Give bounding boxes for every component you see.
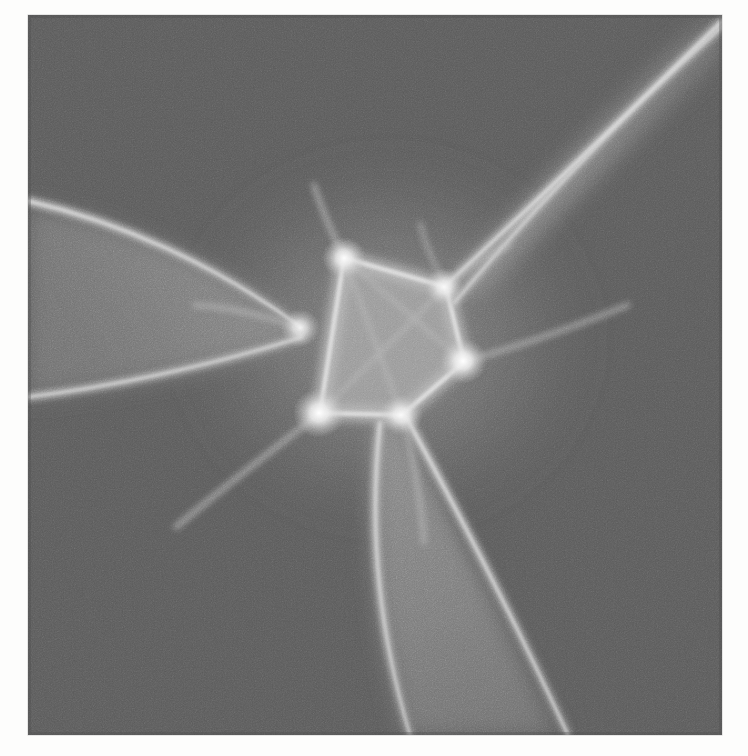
film-grain-layer bbox=[28, 15, 722, 735]
scanned-page bbox=[0, 0, 748, 756]
bleed-through-ghost-line-1 bbox=[58, 734, 678, 755]
caustic-pattern-figure bbox=[28, 15, 722, 735]
caustic-photograph-plate bbox=[28, 15, 722, 735]
